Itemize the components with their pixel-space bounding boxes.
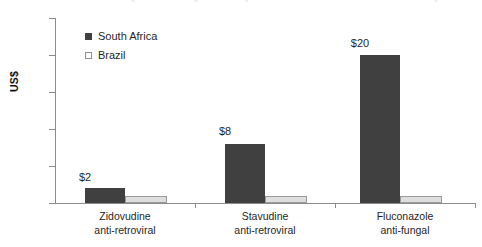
category-line-1: Stavudine (195, 209, 335, 223)
x-axis-tick-3 (475, 203, 476, 208)
category-line-1: Fluconazole (335, 209, 475, 223)
plot-area (55, 18, 475, 203)
category-line-2: anti-retroviral (55, 223, 195, 237)
category-line-2: anti-fungal (335, 223, 475, 237)
x-axis-category-stavudine: Stavudine anti-retroviral (195, 209, 335, 237)
bar-brazil-stavudine (265, 196, 307, 203)
data-label-fluconazole: $20 (340, 38, 380, 49)
data-label-zidovudine: $2 (65, 172, 105, 183)
x-axis-tick-1 (195, 203, 196, 208)
x-axis-tick-2 (335, 203, 336, 208)
data-label-stavudine: $8 (205, 126, 245, 137)
x-axis-category-fluconazole: Fluconazole anti-fungal (335, 209, 475, 237)
x-axis-line (55, 203, 475, 204)
bar-south-africa-zidovudine (85, 188, 125, 203)
category-line-2: anti-retroviral (195, 223, 335, 237)
bar-brazil-zidovudine (125, 196, 167, 203)
x-axis-category-zidovudine: Zidovudine anti-retroviral (55, 209, 195, 237)
category-line-1: Zidovudine (55, 209, 195, 223)
bar-south-africa-stavudine (225, 144, 265, 203)
bar-brazil-fluconazole (400, 196, 442, 203)
y-axis-title: US$ (8, 71, 20, 92)
bar-chart: US$ 25 20 15 10 5 0 South Africa Brazil (0, 0, 482, 247)
scan-artifact (0, 0, 482, 5)
bar-south-africa-fluconazole (360, 55, 400, 203)
